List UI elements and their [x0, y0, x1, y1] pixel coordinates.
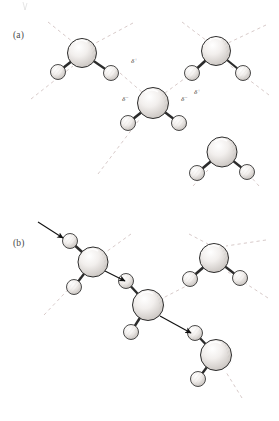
- water-hydrogen-bonding-figure: (a): [0, 0, 279, 421]
- hydrogen-shading: [67, 280, 82, 295]
- hydrogen-shading: [104, 66, 119, 81]
- hydrogen-shading: [124, 325, 139, 340]
- hydrogen-shading: [240, 165, 255, 180]
- hydrogen-shading: [63, 234, 78, 249]
- figure-root: (a): [0, 0, 279, 421]
- hydrogen-shading: [236, 66, 251, 81]
- hydrogen-shading: [121, 116, 136, 131]
- hydrogen-shading: [119, 274, 134, 289]
- panel-b-label: (b): [13, 238, 25, 249]
- figure-background: [0, 0, 279, 421]
- hydrogen-shading: [183, 272, 198, 287]
- hydrogen-shading: [172, 116, 187, 131]
- hydrogen-shading: [233, 271, 248, 286]
- hydrogen-shading: [51, 65, 66, 80]
- hydrogen-shading: [190, 166, 205, 181]
- hydrogen-shading: [191, 372, 206, 387]
- panel-a-label: (a): [13, 30, 24, 41]
- hydrogen-shading: [188, 326, 203, 341]
- hydrogen-shading: [185, 66, 200, 81]
